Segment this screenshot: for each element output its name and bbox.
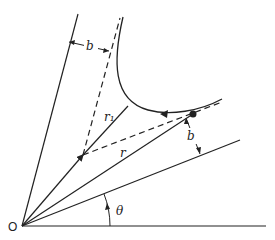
- outgoing-direction-line: [22, 140, 240, 226]
- r1-label: r₁: [104, 110, 115, 124]
- theta-arrow-icon: [105, 203, 110, 210]
- trajectory-arrow-icon: [160, 110, 168, 118]
- b-label-top: b: [86, 39, 94, 53]
- particle-dot-icon: [190, 111, 197, 118]
- diagram-canvas: O θ b b r₁ r: [0, 0, 275, 240]
- origin-label: O: [8, 220, 17, 234]
- trajectory-curve: [117, 17, 222, 113]
- theta-label: θ: [116, 204, 124, 218]
- b-label-right: b: [187, 129, 195, 143]
- theta-arc: [104, 194, 110, 226]
